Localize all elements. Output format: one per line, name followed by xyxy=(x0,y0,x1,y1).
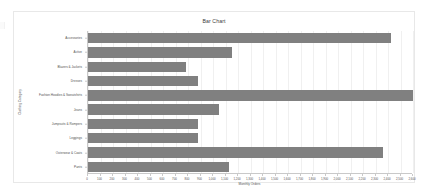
bar-row[interactable] xyxy=(88,90,413,100)
x-axis-tick-label: 1,300 xyxy=(246,177,253,181)
x-axis-tick-label: 2,400 xyxy=(383,177,390,181)
bar-row[interactable] xyxy=(88,104,413,114)
x-axis-tick xyxy=(225,174,226,176)
y-axis-tick-label: Fashion Hoodies & Sweatshirts xyxy=(39,93,82,97)
x-axis-tick xyxy=(250,174,251,176)
x-axis-tick xyxy=(137,174,138,176)
x-axis-tick-label: 700 xyxy=(172,177,177,181)
y-axis-tick-label: Outerwear & Coats xyxy=(56,151,82,155)
x-axis-tick-label: 1,800 xyxy=(308,177,315,181)
x-axis-tick xyxy=(312,174,313,176)
x-axis-tick xyxy=(275,174,276,176)
bar-row[interactable] xyxy=(88,62,413,72)
gridline xyxy=(413,31,414,173)
bar-row[interactable] xyxy=(88,162,413,172)
x-axis-tick xyxy=(112,174,113,176)
x-axis-tick xyxy=(262,174,263,176)
x-axis-tick-label: 2,100 xyxy=(346,177,353,181)
chart-figure-card: Bar Chart AccessoriesActiveBlazers & Jac… xyxy=(13,11,415,183)
y-axis-title: Clothing Category xyxy=(18,89,23,115)
bar[interactable] xyxy=(88,147,383,157)
y-axis-tick-label: Accessories xyxy=(65,36,82,40)
x-axis-tick-label: 1,400 xyxy=(258,177,265,181)
x-axis-tick-label: 2,600 xyxy=(408,177,415,181)
x-axis-tick-label: 1,100 xyxy=(221,177,228,181)
x-axis-tick xyxy=(237,174,238,176)
x-axis-tick xyxy=(187,174,188,176)
x-axis-tick xyxy=(175,174,176,176)
y-axis-labels: AccessoriesActiveBlazers & JacketsDresse… xyxy=(14,31,85,174)
bar[interactable] xyxy=(88,33,391,43)
x-axis-tick-label: 0 xyxy=(86,177,88,181)
x-axis-tick xyxy=(87,174,88,176)
x-axis-tick xyxy=(350,174,351,176)
bar-row[interactable] xyxy=(88,47,413,57)
x-axis-tick-label: 100 xyxy=(97,177,102,181)
plot-area xyxy=(87,31,412,174)
x-axis-tick-label: 900 xyxy=(197,177,202,181)
y-axis-tick-label: Blazers & Jackets xyxy=(57,65,82,69)
y-axis-tick-label: Active xyxy=(74,50,82,54)
x-axis-tick-label: 500 xyxy=(147,177,152,181)
x-axis-tick-label: 300 xyxy=(122,177,127,181)
bar[interactable] xyxy=(88,76,198,86)
x-axis-tick xyxy=(337,174,338,176)
bar-row[interactable] xyxy=(88,76,413,86)
x-axis-tick xyxy=(375,174,376,176)
y-axis-tick-label: Jeans xyxy=(74,108,82,112)
x-axis-tick-label: 1,900 xyxy=(321,177,328,181)
x-axis-tick xyxy=(400,174,401,176)
x-axis-tick-label: 400 xyxy=(135,177,140,181)
x-axis-tick xyxy=(412,174,413,176)
x-axis-tick xyxy=(125,174,126,176)
y-axis-tick-label: Pants xyxy=(74,165,82,169)
x-axis-tick xyxy=(300,174,301,176)
left-edge-artifact xyxy=(0,22,5,29)
x-axis-tick xyxy=(150,174,151,176)
x-axis-tick-label: 1,200 xyxy=(233,177,240,181)
x-axis-tick xyxy=(287,174,288,176)
bar-row[interactable] xyxy=(88,119,413,129)
x-axis-tick-label: 2,300 xyxy=(371,177,378,181)
bar[interactable] xyxy=(88,133,198,143)
bar[interactable] xyxy=(88,162,229,172)
bar[interactable] xyxy=(88,119,198,129)
bars-layer xyxy=(88,31,412,173)
x-axis-tick xyxy=(200,174,201,176)
x-axis-tick-label: 2,500 xyxy=(396,177,403,181)
chart-screenshot: Bar Chart AccessoriesActiveBlazers & Jac… xyxy=(0,0,428,193)
bar-row[interactable] xyxy=(88,147,413,157)
x-axis-tick-label: 1,500 xyxy=(271,177,278,181)
x-axis-tick xyxy=(325,174,326,176)
x-axis-tick-label: 1,700 xyxy=(296,177,303,181)
x-axis-tick-label: 200 xyxy=(110,177,115,181)
x-axis-tick-label: 600 xyxy=(160,177,165,181)
x-axis-tick xyxy=(387,174,388,176)
bar-row[interactable] xyxy=(88,133,413,143)
x-axis-title: Monthly Orders xyxy=(87,182,412,187)
y-axis-tick-label: Dresses xyxy=(71,79,82,83)
x-axis-tick xyxy=(162,174,163,176)
page-title: Bar Chart xyxy=(14,18,414,25)
x-axis-tick xyxy=(212,174,213,176)
x-axis-tick xyxy=(362,174,363,176)
bar[interactable] xyxy=(88,104,219,114)
bar-row[interactable] xyxy=(88,33,413,43)
x-axis-tick-label: 800 xyxy=(185,177,190,181)
bar[interactable] xyxy=(88,62,186,72)
x-axis-tick-label: 1,000 xyxy=(208,177,215,181)
x-axis-tick-label: 2,200 xyxy=(358,177,365,181)
y-axis-tick-label: Leggings xyxy=(69,136,82,140)
bar[interactable] xyxy=(88,47,232,57)
bar[interactable] xyxy=(88,90,413,100)
x-axis-tick-label: 1,600 xyxy=(283,177,290,181)
y-axis-tick-label: Jumpsuits & Rompers xyxy=(52,122,82,126)
x-axis-tick xyxy=(100,174,101,176)
x-axis-tick-label: 2,000 xyxy=(333,177,340,181)
